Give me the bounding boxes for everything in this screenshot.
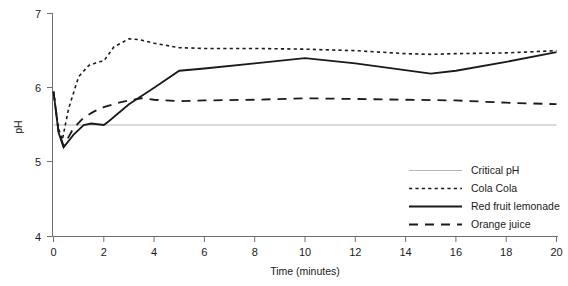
- legend-item-critical-ph[interactable]: Critical pH: [409, 164, 519, 176]
- chart-canvas: 7 6 5 4 pH 0 2 4 6 8: [0, 0, 568, 286]
- x-tick-label-16: 16: [450, 246, 462, 258]
- legend-label-red-fruit-lemonade: Red fruit lemonade: [471, 200, 560, 212]
- y-tick-label-4: 4: [35, 231, 41, 243]
- x-tick-label-18: 18: [500, 246, 512, 258]
- x-tick-label-12: 12: [349, 246, 361, 258]
- x-tick-label-4: 4: [151, 246, 157, 258]
- y-axis-ticks: 7 6 5 4: [35, 8, 53, 243]
- y-tick-label-5: 5: [35, 156, 41, 168]
- x-tick-label-2: 2: [101, 246, 107, 258]
- x-tick-label-8: 8: [252, 246, 258, 258]
- legend-item-red-fruit-lemonade[interactable]: Red fruit lemonade: [409, 200, 560, 212]
- ph-time-line-chart: 7 6 5 4 pH 0 2 4 6 8: [0, 0, 568, 286]
- x-tick-label-20: 20: [550, 246, 562, 258]
- x-tick-label-0: 0: [50, 246, 56, 258]
- legend-label-orange-juice: Orange juice: [471, 218, 531, 230]
- y-tick-label-7: 7: [35, 8, 41, 20]
- legend-item-cola-cola[interactable]: Cola Cola: [409, 182, 517, 194]
- y-tick-label-6: 6: [35, 82, 41, 94]
- series-group: [54, 39, 557, 148]
- x-tick-label-14: 14: [399, 246, 411, 258]
- series-line-red-fruit-lemonade: [54, 52, 557, 147]
- x-tick-label-10: 10: [299, 246, 311, 258]
- legend-item-orange-juice[interactable]: Orange juice: [409, 218, 531, 230]
- y-axis-title: pH: [12, 120, 24, 133]
- series-line-orange-juice: [54, 92, 557, 146]
- x-tick-label-6: 6: [201, 246, 207, 258]
- legend-label-cola-cola: Cola Cola: [471, 182, 517, 194]
- x-axis-title: Time (minutes): [270, 265, 340, 277]
- legend-label-critical-ph: Critical pH: [471, 164, 519, 176]
- x-axis-ticks: 0 2 4 6 8 10 12 14 16 18 20: [50, 237, 562, 259]
- legend: Critical pH Cola Cola Red fruit lemonade…: [409, 164, 560, 230]
